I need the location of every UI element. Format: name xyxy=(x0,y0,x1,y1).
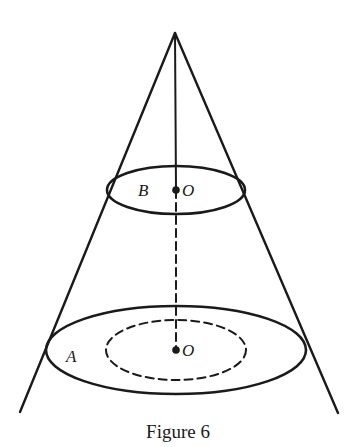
label-b: B xyxy=(138,181,149,200)
cone-left-side xyxy=(20,33,175,412)
center-point-bottom xyxy=(172,346,180,354)
center-point-top xyxy=(172,186,180,194)
cone-right-side xyxy=(175,33,338,413)
label-o-bottom: O xyxy=(182,341,194,360)
label-o-top: O xyxy=(182,181,194,200)
cone-figure: B O A O Figure 6 xyxy=(0,0,356,447)
figure-caption: Figure 6 xyxy=(146,421,210,442)
label-a: A xyxy=(65,347,77,366)
